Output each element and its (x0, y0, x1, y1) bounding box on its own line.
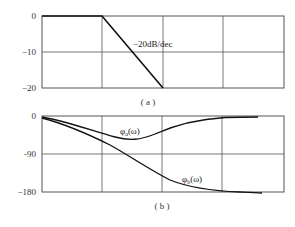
chart-b-phi-b-curve (42, 118, 262, 193)
chart-b-ytick-0: 0 (32, 111, 37, 121)
chart-a-caption: ( a ) (141, 97, 156, 107)
chart-a-slope-label: −20dB/dec (133, 39, 173, 49)
chart-b-ytick-180: −180 (17, 187, 36, 197)
chart-b-caption: ( b ) (155, 201, 170, 211)
chart-b-phi-b-label: φb(ω) (182, 174, 202, 185)
chart-b-phase: 0 -90 −180 φa(ω) φb(ω) ( b ) (17, 111, 284, 211)
chart-b-ytick-90: -90 (24, 149, 36, 159)
chart-a-magnitude: 0 −10 −20 −20dB/dec ( a ) (22, 11, 284, 107)
chart-a-ytick-20: −20 (22, 83, 37, 93)
chart-a-ytick-0: 0 (32, 11, 37, 21)
bode-figure: 0 −10 −20 −20dB/dec ( a ) 0 -90 −180 φa(… (0, 0, 295, 227)
chart-a-ytick-10: −10 (22, 47, 37, 57)
chart-b-phi-a-label: φa(ω) (120, 126, 140, 137)
